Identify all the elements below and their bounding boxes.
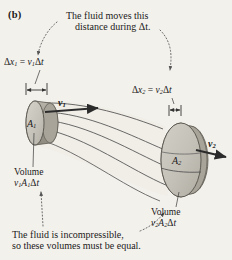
- label-velocity-left: v1: [58, 97, 66, 109]
- label-volume-left: Volume v1A1Δt: [14, 167, 43, 188]
- volume-left-title: Volume: [14, 167, 43, 178]
- bracket-right: [169, 105, 181, 116]
- annotation-bottom: The fluid is incompressible, so these vo…: [12, 229, 141, 251]
- bracket-left: [26, 83, 47, 95]
- annotation-top: The fluid moves this distance during Δt.: [66, 10, 151, 32]
- annotation-top-line2: distance during Δt.: [75, 21, 151, 32]
- label-displacement-right: Δx2 = v2Δt: [132, 85, 172, 96]
- annotation-top-line1: The fluid moves this: [66, 10, 151, 21]
- leader-bottom-left: [41, 192, 43, 226]
- volume-right-title: Volume: [151, 207, 180, 218]
- annotation-bottom-line2: so these volumes must be equal.: [12, 240, 141, 251]
- leader-top-left: [38, 22, 57, 55]
- right-cylinder: [161, 123, 208, 197]
- leader-dx1: [35, 70, 40, 84]
- volume-right-expr: v2A2Δt: [151, 218, 180, 229]
- diagram-graphics: [0, 0, 232, 260]
- figure-canvas: (b) The fluid moves this distance during…: [0, 0, 232, 260]
- panel-label: (b): [8, 9, 21, 21]
- annotation-bottom-line1: The fluid is incompressible,: [12, 229, 141, 240]
- label-displacement-left: Δx1 = v1Δt: [4, 57, 44, 68]
- label-area-left: A1: [27, 118, 36, 130]
- volume-left-expr: v1A1Δt: [14, 178, 43, 189]
- label-volume-right: Volume v2A2Δt: [151, 207, 180, 228]
- label-velocity-right: v2: [208, 138, 216, 150]
- leader-dx2: [172, 98, 174, 104]
- label-area-right: A2: [172, 155, 181, 167]
- leader-top-right: [160, 30, 171, 70]
